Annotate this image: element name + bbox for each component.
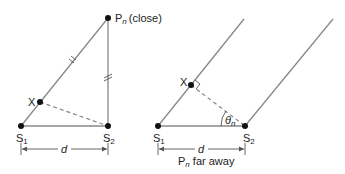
ray-from-s1 <box>158 19 244 126</box>
right-panel: X θn S1 S2 d Pn far away <box>153 19 333 169</box>
point-s2 <box>105 123 111 129</box>
dashed-line-x-s2 <box>40 102 108 126</box>
dashed-perpendicular-x-s2 <box>191 85 245 126</box>
dimension-d-left: d <box>21 143 108 155</box>
label-d-right: d <box>198 143 205 155</box>
point-s1 <box>18 123 24 129</box>
point-pn-close <box>105 15 111 21</box>
caption-pn-far-away: Pn far away <box>178 155 235 169</box>
dimension-d-right: d <box>158 143 245 155</box>
equal-tick-mark-diagonal <box>69 56 76 63</box>
left-panel: Pn(close) X S1 S2 d <box>16 12 162 155</box>
label-d-left: d <box>61 143 68 155</box>
point-s2-right <box>242 123 248 129</box>
label-theta-n: θn <box>225 114 236 128</box>
point-x-right <box>188 82 194 88</box>
label-s1-right: S1 <box>153 132 165 146</box>
label-x: X <box>28 96 36 108</box>
label-s1: S1 <box>16 132 28 146</box>
label-pn-close: Pn(close) <box>115 12 162 26</box>
point-s1-right <box>155 123 161 129</box>
point-x <box>37 99 43 105</box>
label-x-right: X <box>180 76 188 88</box>
label-s2: S2 <box>103 132 115 146</box>
line-s1-pn <box>21 18 108 126</box>
diagram-canvas: Pn(close) X S1 S2 d X θn S1 S2 <box>0 0 345 174</box>
ray-from-s2 <box>245 19 333 126</box>
right-angle-marker <box>195 80 200 89</box>
